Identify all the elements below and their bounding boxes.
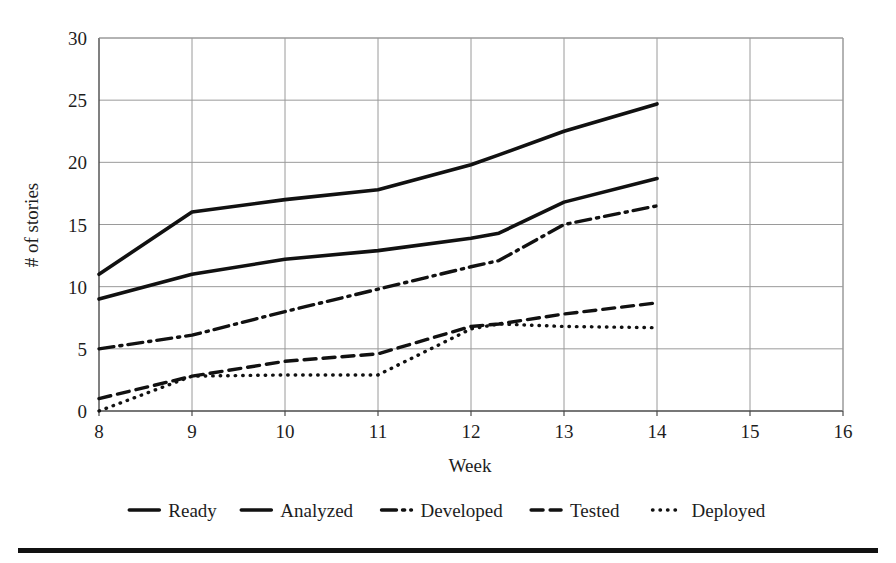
x-tick-label: 11 — [369, 421, 387, 442]
legend-label: Deployed — [692, 500, 766, 521]
y-tick-label: 15 — [68, 215, 87, 236]
y-tick-label: 25 — [68, 90, 87, 111]
legend-label: Tested — [570, 500, 620, 521]
y-tick-label: 30 — [68, 28, 87, 49]
y-tick-label: 0 — [78, 401, 88, 422]
y-tick-label: 10 — [68, 277, 87, 298]
x-tick-label: 8 — [94, 421, 104, 442]
x-tick-label: 9 — [187, 421, 197, 442]
chart-background — [0, 0, 896, 563]
legend-label: Analyzed — [280, 500, 353, 521]
x-tick-label: 10 — [276, 421, 295, 442]
legend-label: Developed — [421, 500, 504, 521]
chart-figure: 051015202530 8910111213141516 # of stori… — [0, 0, 896, 563]
x-tick-label: 13 — [555, 421, 574, 442]
x-tick-label: 14 — [648, 421, 668, 442]
y-tick-label: 20 — [68, 152, 87, 173]
line-chart: 051015202530 8910111213141516 # of stori… — [0, 0, 896, 563]
x-axis-title: Week — [449, 455, 492, 476]
x-tick-label: 16 — [834, 421, 853, 442]
bottom-divider-rule — [18, 548, 878, 553]
y-tick-label: 5 — [78, 339, 88, 360]
legend-label: Ready — [168, 500, 217, 521]
x-tick-label: 15 — [741, 421, 760, 442]
x-tick-label: 12 — [462, 421, 481, 442]
y-axis-title: # of stories — [21, 183, 42, 267]
